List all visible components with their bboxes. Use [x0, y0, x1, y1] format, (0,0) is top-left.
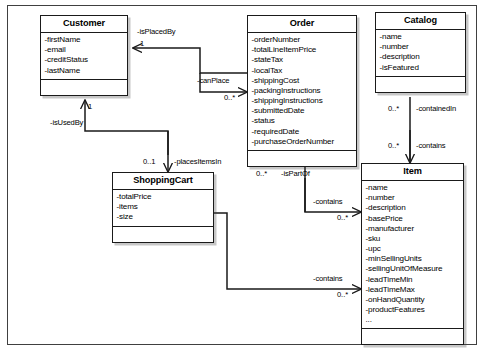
edge-multiplicity-cart-contains: 0..* [337, 291, 348, 299]
class-attributes-shoppingcart: -totalPrice -items -size [113, 190, 213, 227]
attribute: -creditStatus [45, 55, 128, 65]
wire-shoppingcart-isusedby-customer [85, 100, 168, 155]
attribute: -leadTimeMin [366, 275, 464, 285]
class-box-shoppingcart[interactable]: ShoppingCart -totalPrice -items -size [112, 172, 214, 243]
attribute: -stateTax [252, 55, 357, 65]
class-operations-catalog [376, 77, 465, 92]
class-title-customer: Customer [41, 16, 127, 33]
attribute: -shippingCost [252, 76, 357, 86]
edge-role-catalog-contains: -contains [416, 142, 445, 150]
edge-role-isusedby: -isUsedBy [50, 119, 83, 127]
attribute: -leadTimeMax [366, 285, 464, 295]
attribute: -name [366, 183, 464, 193]
edge-role-isplacedby: -isPlacedBy [137, 28, 175, 36]
attribute: -items [117, 202, 214, 212]
uml-diagram-canvas: Customer -firstName -email -creditStatus… [0, 0, 485, 351]
attribute: -requiredDate [252, 127, 357, 137]
attribute: -description [366, 203, 464, 213]
attribute: -lastName [45, 66, 128, 76]
edge-role-containedin: -containedIn [416, 105, 456, 113]
class-box-item[interactable]: Item -name -number -description -basePri… [361, 163, 464, 345]
edge-role-order-contains: -contains [313, 198, 342, 206]
attribute: -description [380, 52, 466, 62]
edge-multiplicity-canplace: 0..* [224, 94, 235, 102]
edge-multiplicity-isusedby: 1 [88, 103, 92, 111]
class-title-item: Item [362, 164, 463, 181]
class-attributes-order: -orderNumber -totalLineItemPrice -stateT… [248, 33, 356, 151]
class-title-catalog: Catalog [376, 13, 465, 30]
attribute: -localTax [252, 66, 357, 76]
class-operations-order [248, 151, 356, 166]
class-box-order[interactable]: Order -orderNumber -totalLineItemPrice -… [247, 15, 357, 167]
class-operations-shoppingcart [113, 227, 213, 242]
attribute: -number [380, 42, 466, 52]
attribute: -shippingInstructions [252, 96, 357, 106]
attribute: -onHandQuantity [366, 295, 464, 305]
attribute: -isFeatured [380, 63, 466, 73]
attribute: ... [366, 315, 464, 325]
class-attributes-item: -name -number -description -basePrice -m… [362, 181, 463, 330]
wire-order-contains-item [305, 178, 361, 212]
attribute: -firstName [45, 35, 128, 45]
attribute: -sellingUnitOfMeasure [366, 264, 464, 274]
edge-multiplicity-ispartof: 0..* [256, 170, 267, 178]
class-title-order: Order [248, 16, 356, 33]
edge-multiplicity-order-contains: 0..* [337, 214, 348, 222]
class-operations-item [362, 329, 463, 344]
attribute: -status [252, 116, 357, 126]
attribute: -purchaseOrderNumber [252, 137, 357, 147]
attribute: -upc [366, 244, 464, 254]
edge-role-cart-contains: -contains [313, 275, 342, 283]
class-attributes-catalog: -name -number -description -isFeatured [376, 30, 465, 77]
edge-role-ispartof: -isPartOf [281, 170, 310, 178]
attribute: -name [380, 32, 466, 42]
class-box-catalog[interactable]: Catalog -name -number -description -isFe… [375, 12, 466, 93]
attribute: -basePrice [366, 214, 464, 224]
attribute: -packingInstructions [252, 86, 357, 96]
class-box-customer[interactable]: Customer -firstName -email -creditStatus… [40, 15, 128, 96]
attribute: -manufacturer [366, 224, 464, 234]
class-operations-customer [41, 80, 127, 95]
edge-role-canplace: -canPlace [197, 77, 229, 85]
attribute: -minSellingUnits [366, 254, 464, 264]
attribute: -totalPrice [117, 192, 214, 202]
attribute: -totalLineItemPrice [252, 45, 357, 55]
class-title-shoppingcart: ShoppingCart [113, 173, 213, 190]
attribute: -sku [366, 234, 464, 244]
edge-multiplicity-containedin: 0..* [388, 105, 399, 113]
wire-order-isplacedby-customer [133, 48, 248, 73]
attribute: -email [45, 45, 128, 55]
edge-multiplicity-catalog-contains: 0..* [388, 142, 399, 150]
class-attributes-customer: -firstName -email -creditStatus -lastNam… [41, 33, 127, 80]
edge-multiplicity-placesitemsin: 0..1 [143, 158, 155, 166]
attribute: -productFeatures [366, 305, 464, 315]
attribute: -size [117, 212, 214, 222]
attribute: -orderNumber [252, 35, 357, 45]
edge-role-placesitemsin: -placesItemsIn [174, 158, 221, 166]
attribute: -submittedDate [252, 106, 357, 116]
edge-multiplicity-isplacedby: 1 [140, 40, 144, 48]
attribute: -number [366, 193, 464, 203]
